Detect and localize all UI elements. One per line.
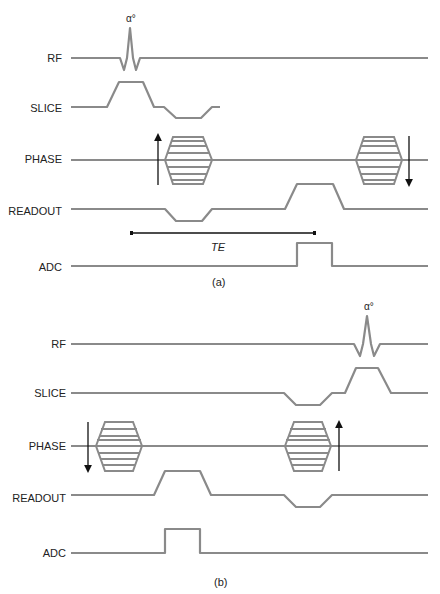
panel-b-readout-waveform xyxy=(71,471,428,507)
panel-a-rf-waveform xyxy=(71,28,428,70)
panel-b-adc-waveform xyxy=(71,529,428,553)
panel-b-slice-waveform xyxy=(71,368,428,405)
panel-a-adc-waveform xyxy=(71,243,428,266)
pulse-sequence-diagram xyxy=(0,0,440,594)
panel-a-slice-waveform xyxy=(71,82,220,118)
panel-a-readout-waveform xyxy=(71,184,428,221)
panel-b-rf-waveform xyxy=(71,316,428,356)
